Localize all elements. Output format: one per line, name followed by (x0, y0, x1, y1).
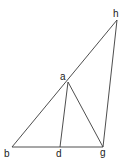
label-d: d (56, 148, 62, 159)
label-a: a (60, 71, 66, 82)
label-g: g (100, 147, 106, 158)
geometry-diagram: h a b d g (0, 0, 124, 164)
segment-ad (60, 82, 68, 147)
segments (12, 20, 117, 147)
segment-bh (12, 20, 117, 147)
label-h: h (113, 8, 119, 19)
label-b: b (4, 148, 10, 159)
segment-hg (103, 20, 117, 147)
segment-ag (68, 82, 103, 147)
